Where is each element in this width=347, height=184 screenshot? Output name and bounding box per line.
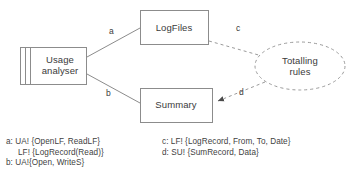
edge-label-b: b (106, 88, 111, 98)
totalling-rules-label: Totalling rules (262, 55, 338, 77)
edge-label-c: c (236, 23, 240, 33)
legend-left-column: a: UA! {OpenLF, ReadLF} LF! {LogRecord(R… (6, 137, 104, 169)
summary-label: Summary (140, 99, 212, 110)
legend-item-c: c: LF! {LogRecord, From, To, Date} (162, 137, 291, 148)
edge-b-line (87, 74, 140, 103)
edge-c-line (209, 41, 262, 56)
logfiles-label: LogFiles (140, 22, 208, 33)
edge-label-d: d (239, 87, 244, 97)
legend-item-a-continued: LF! {LogRecord(Read)} (6, 148, 104, 159)
usage-analyser-label: Usage analyser (32, 54, 88, 76)
legend-item-b: b: UA!{Open, WriteS} (6, 158, 104, 169)
legend-item-d: d: SU! {SumRecord, Data} (162, 148, 291, 159)
legend-right-column: c: LF! {LogRecord, From, To, Date} d: SU… (162, 137, 291, 158)
legend-item-a: a: UA! {OpenLF, ReadLF} (6, 137, 104, 148)
edge-label-a: a (109, 26, 114, 36)
diagram-canvas: Usage analyser LogFiles Summary Totallin… (0, 0, 347, 184)
